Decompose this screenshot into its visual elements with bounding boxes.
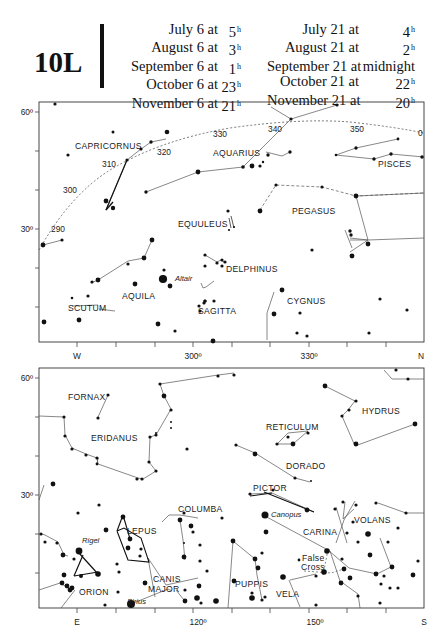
star-name-label: Rigel [82,536,100,545]
constellation-label: ORION [79,587,109,597]
x-axis-label: 150º [306,617,323,627]
star-name-label: Sirius [127,597,146,606]
constellation-label: PUPPIS [235,579,268,589]
y-axis-label: 60º [21,373,33,383]
x-axis-label: S [421,617,427,627]
constellation-label: VOLANS [354,515,391,525]
x-axis-label: 120º [189,617,206,627]
constellation-label: RETICULUM [266,422,319,432]
x-axis-label: E [74,617,80,627]
constellation-label: ERIDANUS [91,433,138,443]
axis-ticks [35,378,386,613]
stars-lower [39,368,419,608]
constellation-label: Cross [301,562,325,572]
constellation-label: VELA [276,589,299,599]
constellation-label: CANIS [153,574,181,584]
constellation-label: CARINA [303,527,337,537]
star-name-label: Canopus [271,510,302,519]
constellation-label: FORNAX [68,392,106,402]
constellation-label: HYDRUS [362,406,400,416]
y-axis-label: 30º [21,490,33,500]
constellation-label: PICTOR [253,483,287,493]
star-chart-lower: 60º30ºE120º150ºSFORNAXERIDANUSRETICULUMH… [0,0,444,643]
constellation-label: DORADO [286,461,326,471]
constellation-label: LEPUS [127,526,157,536]
constellation-label: COLUMBA [178,504,223,514]
constellation-label: MAJOR [148,584,180,594]
